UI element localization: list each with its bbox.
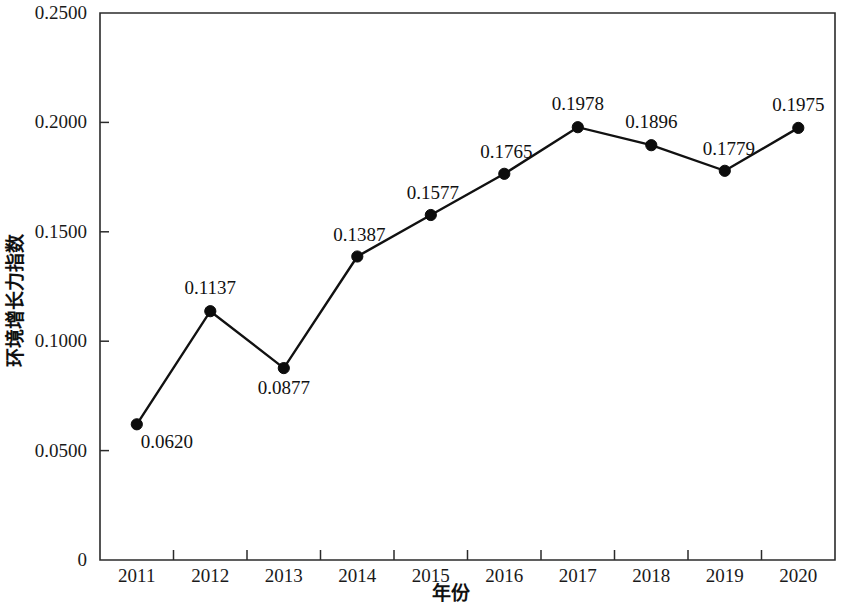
data-point-marker: [278, 363, 289, 374]
data-point-marker: [719, 165, 730, 176]
data-point-label: 0.1975: [772, 94, 824, 115]
x-tick-label: 2018: [632, 565, 670, 586]
data-point-label: 0.0620: [141, 431, 193, 452]
data-point-label: 0.1577: [407, 182, 459, 203]
x-tick-label: 2014: [338, 565, 377, 586]
x-tick-label: 2017: [559, 565, 597, 586]
x-tick-label: 2013: [265, 565, 303, 586]
data-point-label: 0.0877: [258, 377, 310, 398]
y-axis-title: 环境增长力指数: [4, 233, 26, 367]
y-tick-label: 0.1500: [35, 221, 87, 242]
x-tick-label: 2011: [118, 565, 155, 586]
y-tick-label: 0.2000: [35, 111, 87, 132]
chart-container: 00.05000.10000.15000.20000.2500 20112012…: [0, 0, 843, 608]
data-point-marker: [352, 251, 363, 262]
data-point-marker: [572, 122, 583, 133]
x-tick-label: 2019: [706, 565, 744, 586]
y-tick-label: 0.1000: [35, 330, 87, 351]
y-tick-label: 0: [78, 549, 88, 570]
x-axis-title: 年份: [432, 582, 471, 604]
data-point-marker: [499, 168, 510, 179]
line-chart: 00.05000.10000.15000.20000.2500 20112012…: [0, 0, 843, 608]
x-tick-label: 2020: [779, 565, 817, 586]
data-point-label: 0.1896: [625, 111, 677, 132]
y-tick-label: 0.0500: [35, 440, 87, 461]
data-point-marker: [131, 419, 142, 430]
data-point-marker: [205, 306, 216, 317]
data-point-label: 0.1779: [703, 138, 755, 159]
x-tick-label: 2012: [191, 565, 229, 586]
chart-background: [0, 0, 843, 608]
data-point-label: 0.1387: [333, 224, 385, 245]
data-point-marker: [425, 209, 436, 220]
data-point-label: 0.1137: [185, 277, 237, 298]
data-point-label: 0.1978: [552, 93, 604, 114]
data-point-marker: [793, 122, 804, 133]
x-tick-label: 2016: [485, 565, 523, 586]
y-tick-label: 0.2500: [35, 2, 87, 23]
data-point-marker: [646, 140, 657, 151]
data-point-label: 0.1765: [480, 141, 532, 162]
